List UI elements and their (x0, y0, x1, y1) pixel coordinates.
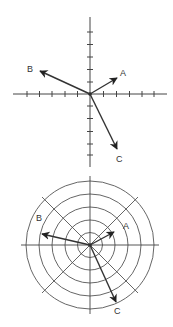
polar-vector-c-arrow (90, 245, 116, 302)
vector-c-label: C (116, 154, 123, 164)
vector-b-label: B (27, 64, 33, 74)
vector-c-arrow (90, 94, 117, 149)
polar-vector-c-label: C (114, 306, 121, 316)
vector-diagrams: A B C A B C (0, 0, 173, 327)
vector-a-label: A (120, 68, 126, 78)
polar-vector-b-arrow (42, 234, 90, 245)
polar-diagram: A B C (21, 176, 159, 316)
vector-b-arrow (40, 71, 90, 94)
polar-vector-b-label: B (36, 213, 42, 223)
polar-vector-a-label: A (123, 221, 129, 231)
cartesian-diagram: A B C (13, 17, 167, 167)
